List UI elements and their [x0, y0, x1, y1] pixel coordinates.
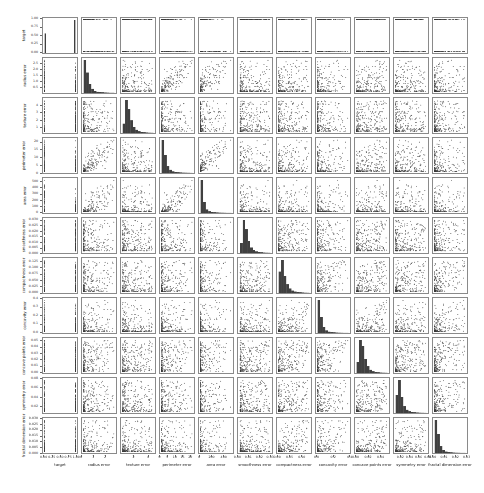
pairplot-diag-hist-cell [159, 137, 195, 174]
x-tick-mark [432, 455, 433, 457]
y-tick-mark [40, 315, 42, 316]
pairplot-scatter-cell [432, 377, 468, 414]
scatter-canvas [82, 18, 116, 53]
y-tick-mark [40, 397, 42, 398]
pairplot-scatter-cell [432, 217, 468, 254]
pairplot-scatter-cell [159, 97, 195, 134]
x-tick-mark [81, 455, 82, 457]
pairplot-scatter-cell [315, 417, 351, 454]
y-tick-mark [40, 157, 42, 158]
y-tick-mark [40, 324, 42, 325]
y-tick-label: 0.3 [0, 305, 38, 308]
y-tick-mark [40, 347, 42, 348]
y-tick-label: 0.02 [0, 405, 38, 408]
scatter-canvas [277, 338, 311, 373]
y-tick-label: 0.03 [0, 352, 38, 355]
y-tick-mark [40, 81, 42, 82]
scatter-canvas [394, 298, 428, 333]
pairplot-scatter-cell [81, 417, 117, 454]
y-tick-mark [40, 406, 42, 407]
scatter-canvas [238, 58, 272, 93]
y-tick-label: 1.5 [0, 74, 38, 77]
scatter-canvas [238, 178, 272, 213]
pairplot-scatter-cell [81, 257, 117, 294]
y-tick-label: 0.000 [0, 291, 38, 294]
pairplot-scatter-cell [159, 217, 195, 254]
pairplot-scatter-cell [432, 137, 468, 174]
y-tick-mark [40, 378, 42, 379]
pairplot-scatter-cell [276, 217, 312, 254]
y-tick-label: 0.025 [0, 285, 38, 288]
scatter-canvas [121, 218, 155, 253]
pairplot-scatter-cell [81, 137, 117, 174]
pairplot-diag-hist-cell [393, 377, 429, 414]
pairplot-scatter-cell [276, 337, 312, 374]
pairplot-scatter-cell [393, 17, 429, 54]
pairplot-scatter-cell [393, 177, 429, 214]
pairplot-scatter-cell [198, 377, 234, 414]
y-tick-mark [40, 353, 42, 354]
pairplot-scatter-cell [393, 297, 429, 334]
pairplot-scatter-cell [81, 297, 117, 334]
histogram-canvas [82, 58, 116, 93]
y-tick-label: 0.015 [0, 235, 38, 238]
x-tick-mark [368, 455, 369, 457]
y-tick-label: 0.06 [0, 386, 38, 389]
y-tick-label: 0.05 [0, 339, 38, 342]
y-tick-label: 1 [0, 126, 38, 129]
scatter-canvas [43, 138, 77, 173]
pairplot-scatter-cell [237, 57, 273, 94]
y-tick-label: 1.00 [0, 17, 38, 20]
y-tick-label: 0.010 [0, 440, 38, 443]
x-tick-mark [105, 455, 106, 457]
pairplot-scatter-cell [159, 417, 195, 454]
histogram-canvas [238, 218, 272, 253]
scatter-canvas [355, 178, 389, 213]
pairplot-scatter-cell [120, 217, 156, 254]
y-tick-mark [40, 430, 42, 431]
pairplot-scatter-cell [393, 217, 429, 254]
x-tick-mark [289, 455, 290, 457]
scatter-canvas [43, 258, 77, 293]
y-tick-label: 15 [0, 148, 38, 151]
y-tick-mark [40, 75, 42, 76]
scatter-canvas [160, 58, 194, 93]
pairplot-scatter-cell [315, 217, 351, 254]
y-tick-mark [40, 187, 42, 188]
y-tick-mark [40, 436, 42, 437]
y-tick-label: 400 [0, 186, 38, 189]
histogram-canvas [277, 258, 311, 293]
y-tick-mark [40, 200, 42, 201]
pairplot-scatter-cell [120, 337, 156, 374]
y-tick-mark [40, 142, 42, 143]
y-tick-label: 0.020 [0, 428, 38, 431]
scatter-canvas [316, 18, 350, 53]
y-tick-mark [40, 242, 42, 243]
x-tick-mark [148, 455, 149, 457]
y-tick-label: 0.025 [0, 423, 38, 426]
scatter-canvas [433, 58, 467, 93]
pairplot-scatter-cell [81, 17, 117, 54]
y-tick-mark [40, 453, 42, 454]
y-tick-label: 0.015 [0, 434, 38, 437]
scatter-canvas [394, 18, 428, 53]
scatter-canvas [316, 338, 350, 373]
scatter-canvas [433, 298, 467, 333]
pairplot-scatter-cell [276, 177, 312, 214]
pairplot-diag-hist-cell [237, 217, 273, 254]
y-tick-mark [40, 332, 42, 333]
pairplot-scatter-cell [159, 17, 195, 54]
y-tick-mark [40, 248, 42, 249]
pairplot-diag-hist-cell [42, 17, 78, 54]
pairplot-scatter-cell [198, 137, 234, 174]
pairplot-scatter-cell [276, 377, 312, 414]
pairplot-scatter-cell [276, 137, 312, 174]
y-tick-label: 3 [0, 111, 38, 114]
scatter-canvas [433, 338, 467, 373]
scatter-canvas [394, 418, 428, 453]
histogram-canvas [121, 98, 155, 133]
scatter-canvas [121, 418, 155, 453]
y-tick-mark [40, 127, 42, 128]
y-tick-mark [40, 225, 42, 226]
scatter-canvas [160, 98, 194, 133]
